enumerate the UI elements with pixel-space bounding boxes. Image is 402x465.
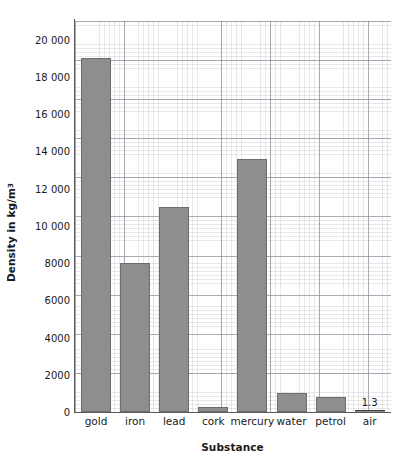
y-axis-tick-label: 2000 — [45, 369, 70, 380]
bar-slot — [274, 21, 310, 412]
y-axis-tick-label: 18 000 — [35, 71, 70, 82]
y-axis-tick-label: 8000 — [45, 258, 70, 269]
bar-slot — [313, 21, 349, 412]
bar-lead — [159, 207, 189, 412]
bars-layer: 1.3 — [75, 21, 391, 412]
bar-slot — [156, 21, 192, 412]
bar-slot — [234, 21, 270, 412]
y-axis-tick-label: 14 000 — [35, 146, 70, 157]
y-axis-title: Density in kg/m3 — [0, 0, 22, 465]
density-bar-chart: Density in kg/m3 0200040006000800010 000… — [0, 0, 402, 465]
y-axis-tick-label: 6000 — [45, 295, 70, 306]
y-axis-tick-label: 20 000 — [35, 34, 70, 45]
bar-value-label-air: 1.3 — [352, 397, 388, 408]
bar-slot — [195, 21, 231, 412]
bar-iron — [120, 263, 150, 412]
bar-slot — [78, 21, 114, 412]
x-axis-title: Substance — [75, 441, 390, 453]
bar-water — [277, 393, 307, 412]
bar-slot — [117, 21, 153, 412]
bar-gold — [81, 58, 111, 412]
x-axis-tick-labels: goldironleadcorkmercurywaterpetrolair — [75, 415, 391, 435]
x-axis-tick-label-air: air — [344, 415, 396, 427]
bar-petrol — [316, 397, 346, 412]
y-axis-tick-label: 16 000 — [35, 109, 70, 120]
bar-cork — [198, 407, 228, 412]
y-axis-title-text: Density in kg/m — [5, 188, 17, 282]
y-axis-tick-label: 12 000 — [35, 183, 70, 194]
bar-air — [355, 410, 385, 412]
bar-slot: 1.3 — [352, 21, 388, 412]
y-axis-tick-label: 10 000 — [35, 220, 70, 231]
bar-mercury — [237, 159, 267, 412]
y-axis-tick-label: 4000 — [45, 332, 70, 343]
